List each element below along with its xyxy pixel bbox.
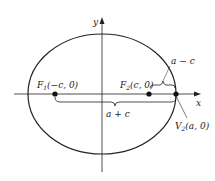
brace-a-minus-c-label: a − c: [171, 56, 195, 66]
f1-label: F1(−c, 0): [36, 80, 79, 91]
f2-label: F2(c, 0): [119, 80, 154, 91]
brace-a-minus-c-leader: [163, 66, 170, 81]
v2-leader-line: [176, 96, 187, 118]
y-axis-arrow-icon: [100, 17, 105, 24]
v2-label: V2(a, 0): [175, 121, 210, 132]
x-axis-arrow-icon: [194, 92, 201, 97]
focus-f2-point: [146, 91, 151, 96]
x-axis-label: x: [196, 98, 201, 108]
ellipse-diagram: x y F1(−c, 0) F2(c, 0) V2(a, 0) a + c a …: [0, 0, 215, 181]
vertex-v2-point: [173, 91, 178, 96]
brace-a-plus-c-label: a + c: [106, 109, 130, 119]
brace-a-plus-c: [55, 97, 176, 106]
y-axis-label: y: [92, 17, 99, 27]
focus-f1-point: [52, 91, 57, 96]
brace-a-minus-c: [150, 81, 175, 88]
